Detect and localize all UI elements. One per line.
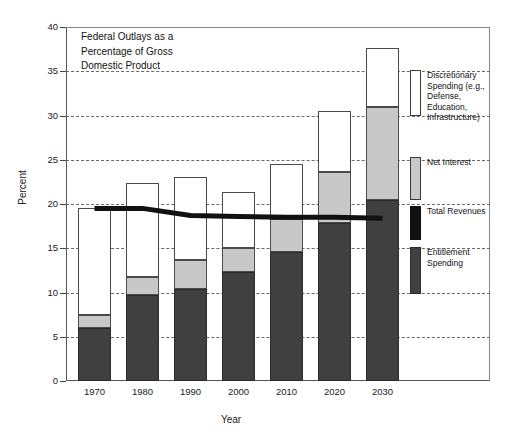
y-tick-30: 30 [28, 111, 58, 121]
bar-2000 [222, 27, 255, 381]
bar-segment-entitlement-2010 [270, 252, 303, 381]
legend-swatch-revenue [410, 206, 421, 240]
y-tick-mark-35 [60, 71, 66, 72]
y-tick-25: 25 [28, 155, 58, 165]
bar-segment-discretionary-1990 [174, 177, 207, 259]
bar-segment-interest-1980 [126, 277, 159, 295]
y-tick-label-40: 40 [32, 22, 58, 32]
y-tick-10: 10 [28, 288, 58, 298]
y-tick-label-5: 5 [32, 332, 58, 342]
x-tick-label-2030: 2030 [353, 386, 413, 397]
bar-segment-discretionary-2030 [366, 48, 399, 106]
y-tick-label-15: 15 [32, 243, 58, 253]
bar-segment-discretionary-1970 [78, 208, 111, 315]
bar-segment-interest-1990 [174, 260, 207, 289]
bar-2020 [318, 27, 351, 381]
y-tick-20: 20 [28, 199, 58, 209]
federal-outlays-chart: 0510152025303540 Percent Federal Outlays… [0, 0, 515, 439]
y-tick-mark-20 [60, 204, 66, 205]
bar-segment-discretionary-2000 [222, 192, 255, 249]
legend-item-revenue: Total Revenues [410, 206, 508, 240]
y-axis-title: Percent [17, 148, 28, 228]
legend-label-revenue: Total Revenues [427, 206, 486, 217]
bar-1990 [174, 27, 207, 381]
bar-segment-interest-2020 [318, 172, 351, 223]
bar-segment-interest-1970 [78, 315, 111, 328]
legend-swatch-entitlement [410, 247, 421, 294]
y-tick-mark-10 [60, 293, 66, 294]
y-tick-label-10: 10 [32, 288, 58, 298]
legend-swatch-interest [410, 157, 421, 200]
y-tick-label-30: 30 [32, 111, 58, 121]
bar-segment-interest-2010 [270, 219, 303, 252]
bar-segment-interest-2000 [222, 248, 255, 272]
bar-segment-discretionary-2010 [270, 164, 303, 219]
bar-segment-entitlement-2030 [366, 200, 399, 381]
bar-2030 [366, 27, 399, 381]
legend-label-discretionary: Discretionary Spending (e.g., Defense, E… [427, 70, 485, 123]
y-tick-15: 15 [28, 243, 58, 253]
y-tick-mark-0 [60, 381, 66, 382]
y-tick-mark-5 [60, 337, 66, 338]
bar-segment-entitlement-1980 [126, 295, 159, 381]
y-tick-35: 35 [28, 66, 58, 76]
y-tick-5: 5 [28, 332, 58, 342]
legend-item-discretionary: Discretionary Spending (e.g., Defense, E… [410, 70, 508, 123]
legend-item-entitlement: Entitlement Spending [410, 247, 508, 294]
y-tick-label-0: 0 [32, 376, 58, 386]
chart-title: Federal Outlays as a Percentage of Gross… [81, 30, 173, 74]
legend-swatch-discretionary [410, 70, 421, 116]
bar-segment-entitlement-1970 [78, 328, 111, 381]
legend-item-interest: Net Interest [410, 157, 508, 200]
bar-segment-discretionary-2020 [318, 111, 351, 172]
bar-1970 [78, 27, 111, 381]
bar-2010 [270, 27, 303, 381]
y-tick-mark-30 [60, 116, 66, 117]
bar-1980 [126, 27, 159, 381]
y-tick-label-25: 25 [32, 155, 58, 165]
y-tick-mark-40 [60, 27, 66, 28]
bar-segment-entitlement-1990 [174, 289, 207, 381]
legend-label-interest: Net Interest [427, 157, 471, 168]
bar-segment-discretionary-1980 [126, 183, 159, 278]
y-tick-mark-25 [60, 160, 66, 161]
y-tick-mark-15 [60, 248, 66, 249]
bar-segment-interest-2030 [366, 107, 399, 200]
legend-label-entitlement: Entitlement Spending [427, 247, 470, 268]
y-tick-label-35: 35 [32, 66, 58, 76]
y-tick-40: 40 [28, 22, 58, 32]
x-axis-title: Year [66, 414, 396, 425]
y-tick-label-20: 20 [32, 199, 58, 209]
y-tick-0: 0 [28, 376, 58, 386]
bar-segment-entitlement-2020 [318, 223, 351, 381]
bar-segment-entitlement-2000 [222, 272, 255, 381]
